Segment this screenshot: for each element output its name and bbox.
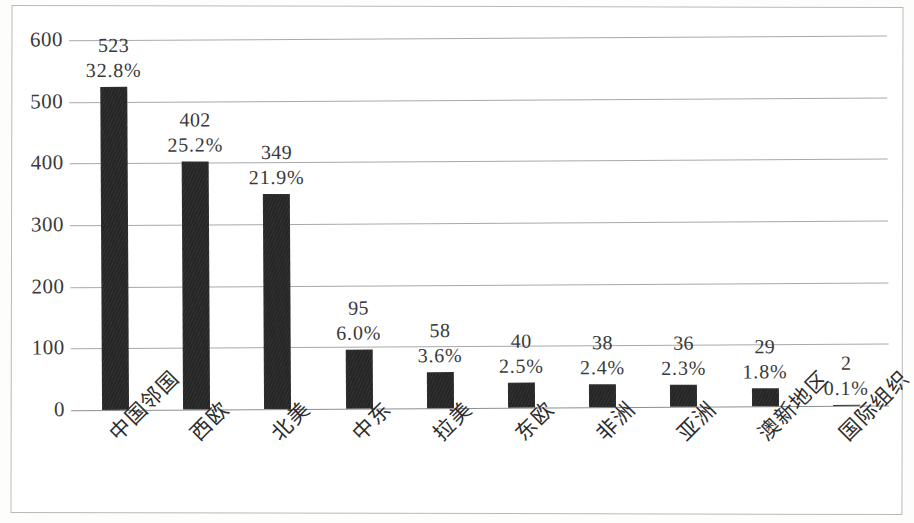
y-tick-0: 0 [7,397,65,419]
bar-data-label: 34921.9% [216,139,336,190]
y-tick-label: 300 [8,212,64,237]
bar-chart-figure: 0100200300400500600 52332.8%40225.2%3492… [0,0,914,523]
bar-value-label: 523 [98,34,129,56]
bar-value-label: 38 [592,331,613,353]
bar-value-label: 95 [348,297,369,319]
y-tick-label: 400 [8,151,64,176]
y-tick-label: 200 [8,274,64,299]
bar-value-label: 29 [754,335,775,357]
bar-value-label: 40 [511,330,532,352]
y-tick-100: 100 [7,336,65,358]
y-tick-300: 300 [6,212,64,234]
y-tick-200: 200 [6,274,64,296]
bar-value-label: 58 [429,319,450,341]
y-tick-label: 0 [9,397,65,422]
bar-percent-label: 21.9% [217,164,337,190]
y-tick-500: 500 [5,89,63,111]
plot-area: 0100200300400500600 52332.8%40225.2%3492… [0,0,914,523]
bar-value-label: 402 [179,108,210,130]
bar-value-label: 349 [261,141,292,163]
y-tick-400: 400 [6,151,64,173]
bars-group [0,0,913,3]
gridline-500 [69,97,887,103]
y-tick-label: 100 [9,336,65,361]
bar-data-labels-group: 52332.8%40225.2%34921.9%956.0%583.6%402.… [0,0,913,3]
bar-value-label: 2 [841,352,852,374]
bar [182,161,210,409]
bar-percent-label: 32.8% [54,58,174,84]
y-axis-tick-labels: 0100200300400500600 [0,0,913,3]
bar [100,87,129,410]
gridlines-group [0,0,913,3]
gridline-600 [69,36,887,42]
bar [263,194,291,409]
bar-data-label: 52332.8% [53,33,173,84]
bar-value-label: 36 [673,331,694,353]
y-tick-label: 500 [7,89,63,114]
